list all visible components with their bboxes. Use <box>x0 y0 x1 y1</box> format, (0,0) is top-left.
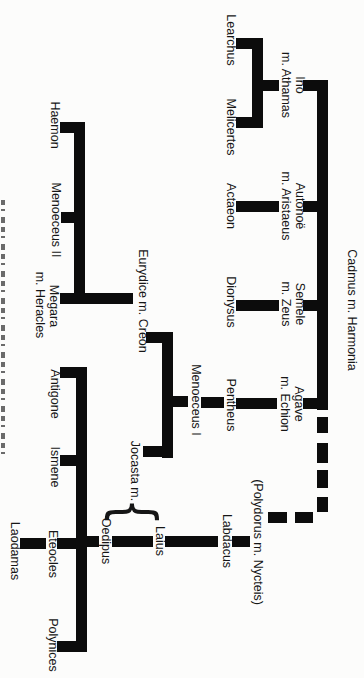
node-label-menoeceus1: Menoeceus I <box>189 364 202 436</box>
connector-dash-v1 <box>295 512 313 523</box>
connector-eurydice-rise <box>83 293 133 304</box>
jocasta-marriage-brace: { <box>104 498 164 526</box>
connector-oedipus-children-bar <box>76 367 87 652</box>
node-label-ino-spouse: m. Athamas <box>279 52 292 118</box>
node-label-polynices: Polynices <box>46 618 59 672</box>
connector-pentheus-to-menoeceus1 <box>201 397 224 408</box>
node-label-eteocles: Eteocles <box>46 530 59 578</box>
node-label-semele: Semele <box>293 283 306 325</box>
node-label-learchus: Learchus <box>224 14 237 65</box>
connector-dash-h2 <box>317 443 328 463</box>
node-label-agave-spouse: m. Echion <box>278 376 291 432</box>
node-label-agave: Agave <box>292 386 305 421</box>
node-label-autonoe-spouse: m. Aristaeus <box>279 172 292 241</box>
connector-dash-h1 <box>317 417 328 433</box>
connector-ino-to-children <box>261 80 279 91</box>
node-label-polydorus-nycteis: (Polydorus m. Nycteis) <box>251 479 264 605</box>
node-label-antigone: Antigone <box>48 369 61 418</box>
node-label-megara-spouse: m. Heracles <box>33 272 46 339</box>
node-label-dionysus: Dionysus <box>224 276 237 327</box>
node-label-jocasta: Jocasta m. <box>128 441 141 501</box>
connector-drop-haemon <box>60 122 76 133</box>
connector-polydorus-to-labdacus <box>232 536 250 547</box>
connector-semele-to-dionysus <box>236 300 279 311</box>
connector-agave-to-pentheus <box>236 398 277 409</box>
node-label-menoeceus2: Menoeceus II <box>49 182 62 257</box>
cadmus-family-tree: Cadmus m. Harmonia Ino m. Athamas Autono… <box>0 0 364 678</box>
connector-drop-jocasta <box>143 446 166 457</box>
node-label-semele-spouse: m. Zeus <box>279 281 292 326</box>
connector-drop-eteocles <box>57 538 78 549</box>
node-label-autonoe: Autonoë <box>293 183 306 230</box>
node-label-megara: Megara <box>47 285 60 327</box>
node-label-oedipus: Oedipus <box>99 518 112 565</box>
node-label-laius: Laius <box>153 526 166 556</box>
connector-cadmus-children-bar <box>317 80 328 410</box>
node-label-actaeon: Actaeon <box>224 183 237 229</box>
connector-labdacus-to-laius <box>165 536 218 547</box>
node-label-laodamas: Laodamas <box>8 522 21 580</box>
connector-drop-antigone <box>60 367 78 378</box>
node-label-ismene: Ismene <box>48 447 61 488</box>
connector-drop-melicertes <box>236 117 263 128</box>
connector-ino-children-bar <box>252 38 263 128</box>
node-label-eurydice-creon: Eurydice m. Creon <box>136 249 149 353</box>
connector-dash-h4 <box>317 497 328 512</box>
connector-eteocles-to-laodamas <box>20 538 46 549</box>
connector-menoeceus1-rise <box>171 396 188 407</box>
connector-laius-to-oedipus <box>112 536 153 547</box>
connector-drop-polynices <box>57 641 78 652</box>
connector-drop-megara <box>60 293 76 304</box>
node-label-ino: Ino <box>293 76 306 93</box>
connector-dash-v2 <box>268 512 287 523</box>
connector-drop-ismene <box>60 455 78 466</box>
node-label-melicertes: Melicertes <box>224 99 237 156</box>
connector-dash-h3 <box>317 470 328 488</box>
connector-autonoe-to-actaeon <box>236 201 279 212</box>
node-label-labdacus: Labdacus <box>220 514 233 568</box>
connector-drop-menoeceus2 <box>61 212 76 223</box>
node-label-cadmus-harmonia: Cadmus m. Harmonia <box>345 249 358 371</box>
cropped-caption-fragment <box>1 200 5 458</box>
connector-drop-learchus <box>236 38 263 49</box>
scanned-figure-page: Cadmus m. Harmonia Ino m. Athamas Autono… <box>0 0 364 678</box>
node-label-pentheus: Pentheus <box>224 379 237 432</box>
connector-menoeceus1-children-bar <box>162 332 173 458</box>
node-label-haemon: Haemon <box>48 101 61 148</box>
